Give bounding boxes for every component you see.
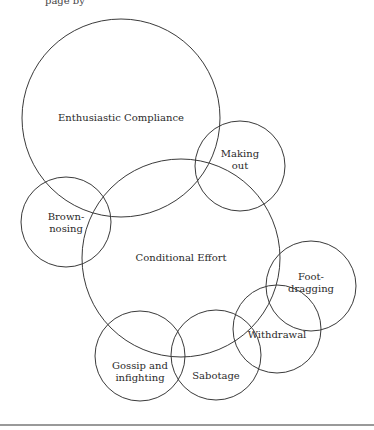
making-out-label: Makingout — [221, 148, 260, 171]
enthusiastic-compliance-label: Enthusiastic Compliance — [58, 112, 184, 123]
withdrawal-label: Withdrawal — [248, 329, 307, 340]
brown-nosing-circle — [21, 177, 111, 267]
gossip-and-infighting-label: Gossip andinfighting — [112, 360, 168, 383]
foot-dragging-label: Foot-dragging — [288, 271, 335, 294]
brown-nosing-label: Brown-nosing — [48, 211, 85, 234]
behavior-diagram: page by Enthusiastic ComplianceMakingout… — [0, 0, 374, 430]
conditional-effort-label: Conditional Effort — [136, 252, 227, 263]
header-fragment: page by — [45, 0, 85, 6]
sabotage-label: Sabotage — [192, 370, 240, 381]
